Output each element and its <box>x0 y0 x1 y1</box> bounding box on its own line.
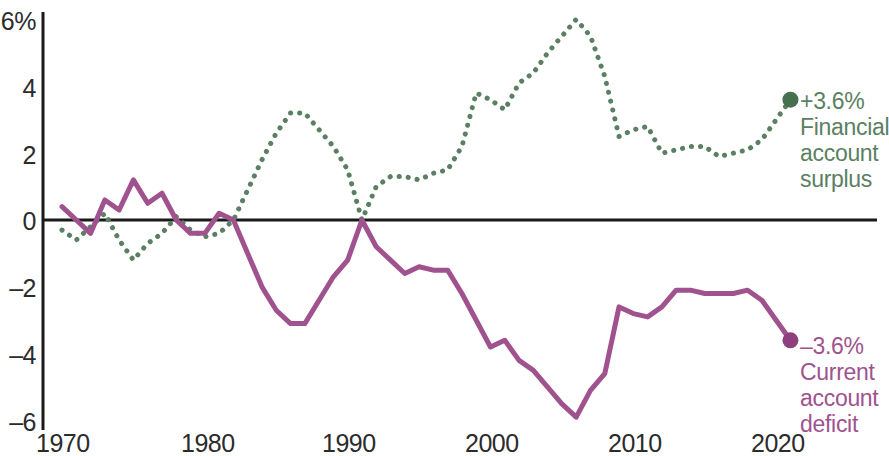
x-tick-1970: 1970 <box>36 429 90 456</box>
annotation-green-line2: account <box>800 140 889 166</box>
x-tick-1990: 1990 <box>322 429 376 456</box>
x-tick-1980: 1980 <box>181 429 235 456</box>
annotation-current-account-deficit: –3.6% Current account deficit <box>800 333 878 437</box>
annotation-purple-line2: account <box>800 385 878 411</box>
x-tick-2000: 2000 <box>465 429 519 456</box>
annotation-purple-line1: Current <box>800 359 878 385</box>
y-tick-0: 0 <box>0 207 36 236</box>
series-current-account-deficit <box>62 180 790 417</box>
annotation-green-line3: surplus <box>800 166 889 192</box>
endpoint-marker-purple <box>782 332 798 348</box>
series-financial-account-surplus <box>62 19 790 260</box>
annotation-purple-value: –3.6% <box>800 333 878 359</box>
y-tick-neg4: –4 <box>0 341 36 370</box>
x-tick-2010: 2010 <box>608 429 662 456</box>
y-tick-neg2: –2 <box>0 274 36 303</box>
y-tick-4: 4 <box>0 74 36 103</box>
endpoint-marker-green <box>782 92 798 108</box>
y-tick-neg6: –6 <box>0 408 36 437</box>
annotation-green-line1: Financial <box>800 114 889 140</box>
annotation-financial-account-surplus: +3.6% Financial account surplus <box>800 88 889 192</box>
annotation-purple-line3: deficit <box>800 411 878 437</box>
y-tick-6: 6% <box>0 7 36 36</box>
y-tick-2: 2 <box>0 141 36 170</box>
annotation-green-value: +3.6% <box>800 88 889 114</box>
x-tick-2020: 2020 <box>751 429 805 456</box>
